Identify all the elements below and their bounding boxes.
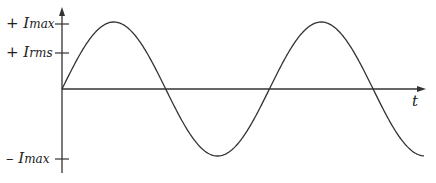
y-axis-arrow-icon [59, 7, 65, 16]
label-plus-irms: + Irms [6, 43, 53, 61]
ac-waveform-diagram [0, 0, 436, 183]
label-plus-imax: + Imax [6, 14, 55, 32]
label-minus-imax: – Imax [6, 149, 50, 167]
x-axis-label: t [412, 92, 418, 110]
x-axis-arrow-icon [417, 86, 426, 92]
